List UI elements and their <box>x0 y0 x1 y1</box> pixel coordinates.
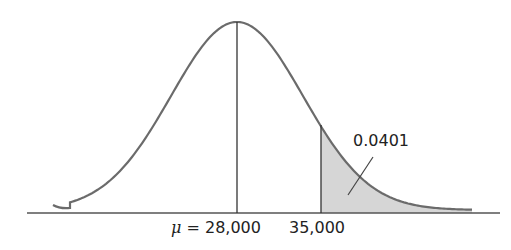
normal-distribution-chart <box>0 0 511 250</box>
density-curve <box>53 22 472 210</box>
cutoff-label: 35,000 <box>289 218 345 237</box>
area-annotation: 0.0401 <box>353 131 409 150</box>
mean-label: μ = 28,000 <box>171 218 261 237</box>
mu-symbol: μ <box>171 218 181 237</box>
mean-value: = 28,000 <box>181 218 261 237</box>
